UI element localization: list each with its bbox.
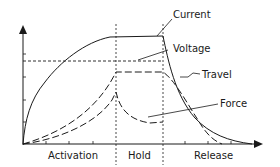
force-curve (23, 92, 163, 144)
y-axis (19, 25, 27, 145)
force-label: Force (220, 98, 247, 109)
solenoid-timing-diagram: Current Voltage Travel Force Activation … (0, 0, 280, 167)
current-curve (23, 36, 252, 144)
x-axis (23, 140, 263, 148)
force-leader (148, 104, 218, 117)
phase-activation-label: Activation (48, 150, 98, 161)
phase-hold-label: Hold (128, 150, 151, 161)
current-leader (157, 19, 172, 36)
travel-curve (23, 72, 222, 144)
travel-label: Travel (201, 69, 232, 80)
phase-release-label: Release (194, 150, 233, 161)
current-label: Current (173, 9, 211, 20)
voltage-leader (138, 50, 168, 60)
travel-leader (180, 73, 200, 77)
voltage-label: Voltage (173, 43, 211, 54)
x-axis-arrow-icon (254, 140, 263, 148)
y-axis-arrow-icon (19, 25, 27, 34)
